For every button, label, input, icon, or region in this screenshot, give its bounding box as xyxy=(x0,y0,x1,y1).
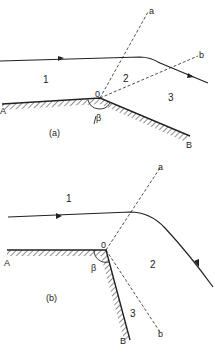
region-2-label: 2 xyxy=(150,259,156,270)
wall-start-label: A xyxy=(0,106,6,116)
ray-a-label: a xyxy=(149,6,154,16)
figure-a: 1 2 3 0 β A B a b (a) xyxy=(0,6,208,150)
vertex-label: 0 xyxy=(101,240,106,250)
region-2-label: 2 xyxy=(123,73,129,84)
streamline-a xyxy=(0,57,208,83)
ray-b-label: b xyxy=(199,50,204,60)
wall-b xyxy=(7,250,130,340)
wall-start-label: A xyxy=(4,258,10,268)
flow-arrow-icon xyxy=(56,213,62,219)
ray-a-label: a xyxy=(158,162,163,172)
region-1-label: 1 xyxy=(43,74,49,85)
region-3-label: 3 xyxy=(168,92,174,103)
region-1-label: 1 xyxy=(66,193,72,204)
wall-end-label: B xyxy=(120,336,126,346)
caption-a: (a) xyxy=(49,128,60,138)
angle-label: β xyxy=(96,113,101,123)
flow-arrow-icon xyxy=(58,56,64,61)
ray-a-line xyxy=(100,12,148,98)
region-3-label: 3 xyxy=(130,308,136,319)
ray-b-label: b xyxy=(158,329,163,339)
ray-b-line xyxy=(100,56,198,98)
wall-end-label: B xyxy=(186,140,192,150)
figure-b: a 1 2 3 0 β A B b (b) xyxy=(4,162,213,346)
vertex-label: 0 xyxy=(95,89,100,99)
angle-label: β xyxy=(91,263,96,273)
caption-b: (b) xyxy=(46,293,57,303)
wall-hatching-b xyxy=(7,250,130,340)
ray-a-line xyxy=(106,168,160,250)
